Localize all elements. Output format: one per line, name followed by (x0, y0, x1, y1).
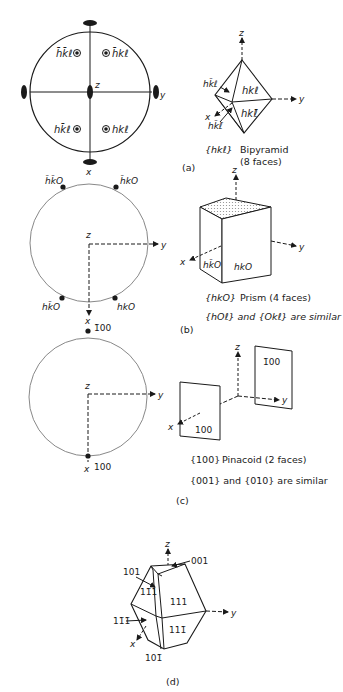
face-label: hk̄ℓ (203, 78, 218, 89)
axis-y-label: y (157, 390, 164, 400)
pole-icon (85, 328, 90, 333)
pole-label: 1̄00 (94, 323, 111, 333)
face-label: 11̄1 (140, 587, 157, 597)
panel-tag: (c) (176, 495, 189, 506)
face-label: hkℓ̄ (241, 108, 258, 119)
form-label: {hkO} (205, 292, 236, 303)
axis-z-label: z (234, 342, 240, 352)
panel-tag: (d) (166, 676, 179, 687)
stereogram-a: z y x h̄k̄ℓ h̄kℓ hk̄ℓ hkℓ (21, 20, 166, 177)
panel-tag: (a) (182, 162, 195, 173)
prism-solid: z y x hk̄O hkO (179, 165, 305, 283)
face-label: hk̄ℓ̄ (208, 120, 224, 131)
axis-y-label: y (159, 90, 166, 100)
pole-label: hkℓ (112, 124, 128, 135)
face-label: 101 (123, 567, 140, 577)
face-count: (8 faces) (240, 156, 282, 167)
similar-forms-note: {001} and {010} are similar (190, 475, 328, 486)
face-label: 100 (195, 425, 212, 435)
crystal-forms-figure: z y x h̄k̄ℓ h̄kℓ hk̄ℓ hkℓ (0, 0, 343, 692)
axis-z-label: z (164, 539, 170, 549)
face-label: hk̄O (203, 259, 221, 270)
combined-crystal-solid: z y x 001 101 11̄1 111 11̄1̄ 111̄ 101̄ (113, 539, 237, 663)
axis-z-label: z (85, 230, 91, 240)
axis-x-label: x (83, 464, 90, 474)
face-label: 111̄ (169, 625, 186, 635)
axis-z-label: z (84, 381, 90, 391)
axis-z-label: z (238, 28, 244, 38)
face-label: hkℓ (242, 85, 258, 96)
face-label: 1̄00 (263, 357, 280, 367)
pole-label: 100 (94, 462, 111, 472)
form-name: Prism (4 faces) (240, 292, 311, 303)
axis-y-label: y (298, 94, 305, 104)
pole-label: hk̄O (42, 301, 60, 312)
axis-x-label: x (179, 257, 186, 267)
twofold-left-icon (21, 85, 27, 99)
axis-y-label: y (230, 608, 237, 618)
stereogram-c: z y x 1̄00 100 (29, 323, 164, 474)
face-label: 001 (191, 556, 208, 566)
panel-b: z y x h̄k̄O h̄kO hk̄O hkO z y x hk̄O (30, 165, 342, 335)
axis-y-label: y (298, 242, 305, 252)
axis-x-label: x (85, 167, 92, 177)
pole-label: hk̄ℓ (54, 123, 70, 135)
face-label: hkO (234, 262, 252, 272)
panel-d: z y x 001 101 11̄1 111 11̄1̄ 111̄ 101̄ (… (113, 539, 237, 687)
similar-forms-note: {hOℓ} and {Okℓ} are similar (205, 311, 342, 322)
form-name: Bipyramid (240, 144, 288, 155)
pole-label: h̄k̄O (45, 175, 63, 186)
axis-x-label: x (129, 639, 136, 649)
pole-icon (85, 453, 90, 458)
twofold-top-icon (83, 20, 97, 26)
axis-x-label: x (167, 422, 174, 432)
pole-label: h̄kℓ (112, 47, 128, 59)
face-label: 111 (170, 597, 187, 607)
panel-a: z y x h̄k̄ℓ h̄kℓ hk̄ℓ hkℓ (21, 20, 305, 177)
pinacoid-solid: z y x 1̄00 100 (167, 342, 292, 440)
panel-tag: (b) (180, 324, 193, 335)
axis-z-label: z (231, 165, 237, 175)
axis-y-label: y (160, 240, 167, 250)
axis-y-label: y (281, 395, 288, 405)
stereogram-b: z y x h̄k̄O h̄kO hk̄O hkO (30, 175, 167, 326)
pole-label: hkO (117, 302, 135, 312)
axis-z-label: z (94, 80, 100, 90)
form-name: Pinacoid (2 faces) (222, 454, 306, 465)
form-label: {hkℓ} (205, 144, 233, 155)
axis-x-label: x (84, 316, 91, 326)
twofold-bottom-icon (83, 159, 97, 165)
twofold-center-icon (87, 85, 93, 99)
pole-label: h̄k̄ℓ (56, 47, 72, 59)
form-label: {100} (190, 454, 220, 465)
face-label: 101̄ (145, 653, 162, 663)
bipyramid-solid: z y x hk̄ℓ hkℓ hkℓ̄ hk̄ℓ̄ (203, 28, 305, 133)
twofold-right-icon (153, 85, 159, 99)
panel-c: z y x 1̄00 100 z y x 1̄00 100 {100} Pina… (29, 323, 328, 506)
pole-label: h̄kO (120, 175, 138, 186)
